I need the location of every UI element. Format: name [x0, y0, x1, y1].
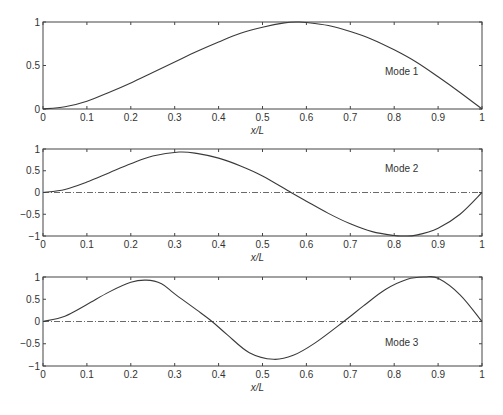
x-tick-label: 0.3	[168, 369, 182, 380]
y-tick-label: −1	[29, 231, 41, 242]
x-tick-label: 0.2	[124, 112, 138, 123]
mode-annotation: Mode 2	[385, 163, 419, 174]
y-tick-label: 1	[34, 17, 40, 28]
x-tick-label: 0.6	[299, 239, 313, 250]
y-tick-label: −1	[29, 361, 41, 372]
x-tick-label: 0.7	[343, 112, 357, 123]
subplot-3: 00.10.20.30.40.50.60.70.80.91−1−0.500.51…	[20, 272, 485, 394]
mode-annotation: Mode 3	[385, 337, 419, 348]
x-axis-label: x/L	[250, 125, 264, 136]
mode-shapes-figure: 00.10.20.30.40.50.60.70.80.9100.51x/LMod…	[0, 0, 503, 415]
x-tick-label: 0.4	[212, 369, 226, 380]
x-tick-label: 0.7	[343, 369, 357, 380]
y-tick-label: 0	[34, 104, 40, 115]
y-tick-label: −0.5	[20, 338, 40, 349]
mode-annotation: Mode 1	[385, 66, 419, 77]
x-tick-label: 1	[479, 369, 485, 380]
x-tick-label: 0	[40, 239, 46, 250]
y-tick-label: 0	[34, 316, 40, 327]
y-tick-label: −0.5	[20, 209, 40, 220]
x-tick-label: 0.9	[431, 239, 445, 250]
x-tick-label: 1	[479, 112, 485, 123]
x-tick-label: 0.5	[256, 239, 270, 250]
x-tick-label: 0.1	[80, 239, 94, 250]
y-tick-label: 0.5	[26, 165, 40, 176]
x-tick-label: 0.2	[124, 369, 138, 380]
x-tick-label: 0.5	[256, 369, 270, 380]
subplot-2: 00.10.20.30.40.50.60.70.80.91−1−0.500.51…	[20, 144, 485, 264]
x-tick-label: 0.8	[387, 112, 401, 123]
x-tick-label: 0.5	[256, 112, 270, 123]
x-tick-label: 0.3	[168, 239, 182, 250]
x-tick-label: 0.9	[431, 369, 445, 380]
x-tick-label: 0.8	[387, 239, 401, 250]
x-tick-label: 0.7	[343, 239, 357, 250]
y-tick-label: 1	[34, 272, 40, 283]
x-tick-label: 0.2	[124, 239, 138, 250]
y-tick-label: 1	[34, 144, 40, 155]
plot-frame	[43, 277, 482, 366]
y-tick-label: 0.5	[26, 294, 40, 305]
x-tick-label: 0	[40, 112, 46, 123]
x-tick-label: 0.6	[299, 112, 313, 123]
x-tick-label: 0.3	[168, 112, 182, 123]
x-tick-label: 0.4	[212, 112, 226, 123]
x-tick-label: 0	[40, 369, 46, 380]
x-tick-label: 0.9	[431, 112, 445, 123]
y-tick-label: 0	[34, 187, 40, 198]
x-tick-label: 0.8	[387, 369, 401, 380]
x-axis-label: x/L	[250, 382, 264, 393]
x-tick-label: 0.1	[80, 369, 94, 380]
x-tick-label: 0.4	[212, 239, 226, 250]
y-tick-label: 0.5	[26, 60, 40, 71]
subplot-1: 00.10.20.30.40.50.60.70.80.9100.51x/LMod…	[26, 17, 485, 137]
x-tick-label: 1	[479, 239, 485, 250]
x-axis-label: x/L	[250, 252, 264, 263]
x-tick-label: 0.6	[299, 369, 313, 380]
x-tick-label: 0.1	[80, 112, 94, 123]
